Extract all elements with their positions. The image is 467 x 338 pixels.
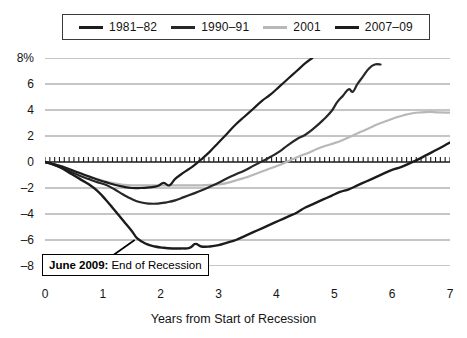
legend-entry-200709[interactable]: 2007–09 <box>335 20 413 34</box>
legend-line-swatch <box>263 26 287 29</box>
annotation-text: End of Recession <box>111 259 201 271</box>
legend-label: 1981–82 <box>109 20 157 34</box>
legend-line-swatch <box>335 26 359 29</box>
legend-entry-198182[interactable]: 1981–82 <box>79 20 157 34</box>
x-tick-label: 0 <box>35 288 55 300</box>
x-tick-label: 7 <box>440 288 460 300</box>
x-tick-label: 5 <box>324 288 344 300</box>
chart-legend: 1981–821990–9120012007–09 <box>62 14 430 40</box>
legend-line-swatch <box>79 26 103 29</box>
x-tick-label: 6 <box>382 288 402 300</box>
chart-canvas <box>45 58 450 266</box>
y-tick-label: –8 <box>21 260 34 272</box>
series-line-199091 <box>45 64 381 204</box>
legend-label: 2007–09 <box>365 20 413 34</box>
series-line-2001 <box>45 112 450 186</box>
legend-entry-199091[interactable]: 1990–91 <box>171 20 249 34</box>
x-tick-label: 1 <box>93 288 113 300</box>
annotation-bold-text: June 2009: <box>49 259 108 271</box>
y-tick-label: 2 <box>27 130 34 142</box>
x-tick-label: 2 <box>151 288 171 300</box>
legend-label: 2001 <box>293 20 321 34</box>
legend-entry-2001[interactable]: 2001 <box>263 20 321 34</box>
y-tick-label: 4 <box>27 104 34 116</box>
annotation-callout: June 2009: End of Recession <box>42 254 209 276</box>
y-tick-label: –6 <box>21 234 34 246</box>
y-tick-label: 0 <box>27 156 34 168</box>
x-axis-title: Years from Start of Recession <box>0 312 467 326</box>
y-axis: 8%6420–2–4–6–8 <box>0 58 40 266</box>
y-tick-label: –4 <box>21 208 34 220</box>
y-tick-label: 8% <box>17 52 34 64</box>
legend-label: 1990–91 <box>201 20 249 34</box>
legend-line-swatch <box>171 26 195 29</box>
y-tick-label: –2 <box>21 182 34 194</box>
y-tick-label: 6 <box>27 78 34 90</box>
plot-area <box>45 58 450 266</box>
x-tick-label: 4 <box>266 288 286 300</box>
x-axis: 01234567 <box>45 288 450 304</box>
x-tick-label: 3 <box>209 288 229 300</box>
